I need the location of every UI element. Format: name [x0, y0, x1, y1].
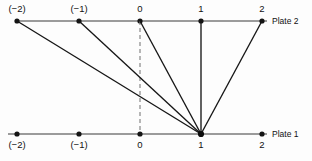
diagram-canvas: [0, 0, 312, 161]
plate-1-axis-group: [8, 131, 267, 137]
slit-diffraction-path-diagram: (−2) (−1) 0 1 2 (−2) (−1) 0 1 2 Plate 2 …: [0, 0, 312, 161]
plate-1-tick-label-minus-1: (−1): [70, 140, 87, 150]
plate-1-tick-label-0: 0: [137, 140, 142, 150]
plate-1-tick-label-minus-2: (−2): [8, 140, 25, 150]
plate-1-node-1: [198, 131, 204, 137]
plate-2-tick-label-2: 2: [259, 4, 264, 14]
path-from-0: [140, 21, 201, 134]
plate-2-tick-label-0: 0: [137, 4, 142, 14]
plate-1-label: Plate 1: [272, 129, 298, 139]
plate-2-tick-label-minus-2: (−2): [8, 4, 25, 14]
path-from-minus-2: [17, 21, 201, 134]
path-from-2: [201, 21, 262, 134]
plate-2-label: Plate 2: [272, 16, 298, 26]
plate-1-tick-label-1: 1: [198, 140, 203, 150]
plate-1-tick-label-2: 2: [259, 140, 264, 150]
plate-1-node-minus-2: [14, 131, 19, 136]
plate-1-node-2: [259, 131, 264, 136]
plate-2-tick-label-1: 1: [198, 4, 203, 14]
plate-1-node-0: [137, 131, 142, 136]
plate-2-tick-label-minus-1: (−1): [70, 4, 87, 14]
plate-1-node-minus-1: [76, 131, 81, 136]
